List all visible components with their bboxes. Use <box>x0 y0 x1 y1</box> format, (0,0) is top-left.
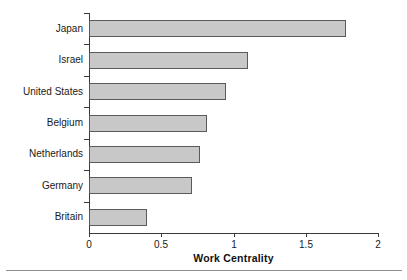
x-axis-tick-label: 0.5 <box>154 239 168 250</box>
x-axis-tick <box>306 233 307 237</box>
y-axis-tick <box>84 107 89 108</box>
y-axis-tick <box>84 202 89 203</box>
y-axis-tick <box>84 44 89 45</box>
x-axis-tick-label: 1 <box>231 239 237 250</box>
category-label: Britain <box>55 212 83 222</box>
bar <box>89 115 207 132</box>
category-label: Germany <box>42 181 83 191</box>
bar <box>89 83 226 100</box>
x-axis-tick-label: 2 <box>375 239 381 250</box>
bar <box>89 52 248 69</box>
y-axis-tick <box>84 13 89 14</box>
category-label: Netherlands <box>29 149 83 159</box>
x-axis-title: Work Centrality <box>0 252 407 264</box>
x-axis-tick <box>161 233 162 237</box>
footer-rule <box>6 270 402 271</box>
x-axis-tick-label: 0 <box>86 239 92 250</box>
category-label: Belgium <box>47 118 83 128</box>
bar <box>89 177 192 194</box>
bar <box>89 146 200 163</box>
x-axis-tick <box>89 233 90 237</box>
category-label: Japan <box>56 24 83 34</box>
bar <box>89 209 147 226</box>
category-label: United States <box>23 87 83 97</box>
x-axis-tick <box>378 233 379 237</box>
y-axis-tick <box>84 76 89 77</box>
y-axis-tick <box>84 170 89 171</box>
y-axis-tick <box>84 139 89 140</box>
bar <box>89 20 346 37</box>
category-label: Israel <box>59 55 83 65</box>
x-axis-title-text: Work Centrality <box>193 252 273 264</box>
x-axis-tick <box>234 233 235 237</box>
work-centrality-bar-chart: JapanIsraelUnited StatesBelgiumNetherlan… <box>0 0 407 280</box>
x-axis-tick-label: 1.5 <box>299 239 313 250</box>
